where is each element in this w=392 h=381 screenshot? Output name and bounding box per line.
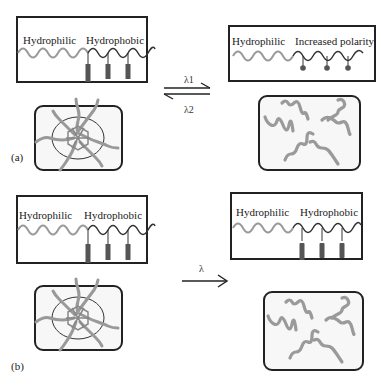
diagram-graphics (0, 0, 392, 381)
equilibrium-arrow (164, 83, 210, 99)
polar-pendant (300, 65, 306, 71)
polar-pendant (345, 65, 351, 71)
micelle (36, 279, 118, 350)
hydrophobic-pendant (106, 64, 111, 79)
dispersed-chains (268, 297, 354, 362)
chain-hydrophobic (86, 47, 156, 82)
micelle (36, 99, 118, 170)
hydrophobic-pendant (86, 64, 91, 82)
hydrophobic-pendant (126, 64, 131, 79)
dispersed-chains (265, 99, 350, 164)
chain-hydrophilic (18, 49, 88, 58)
polar-pendant (324, 65, 330, 71)
forward-arrow (182, 275, 227, 287)
